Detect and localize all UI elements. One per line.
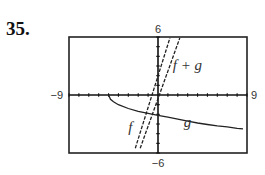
graph: 6 −6 −9 9 ff + gg <box>0 0 265 175</box>
x-min-label: −9 <box>50 89 63 101</box>
x-max-label: 9 <box>251 89 257 101</box>
curve-labels: ff + gg <box>128 57 202 135</box>
curve-label: g <box>184 114 192 130</box>
axes <box>69 37 247 153</box>
curve-f <box>135 38 170 148</box>
curve-label: f <box>128 119 134 135</box>
curve-f-g <box>140 38 180 148</box>
y-min-label: −6 <box>152 157 165 169</box>
curve-label: f + g <box>173 57 203 73</box>
y-max-label: 6 <box>155 23 161 35</box>
